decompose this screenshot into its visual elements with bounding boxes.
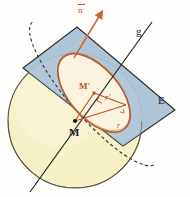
- sphere-center-label: M: [69, 127, 79, 138]
- point-M-prime: [92, 91, 95, 94]
- plane-E-label: E: [158, 95, 165, 106]
- normal-vector-letter: n: [78, 5, 83, 15]
- line-g-label: g: [136, 26, 142, 37]
- radius-r-prime-label: r': [105, 93, 110, 102]
- diagram-canvas: n g E M' M r' r: [0, 0, 190, 197]
- circle-center-label: M': [79, 82, 90, 91]
- radius-r-label: r: [117, 122, 120, 130]
- normal-vector-label: n: [78, 4, 85, 15]
- point-M: [73, 119, 77, 123]
